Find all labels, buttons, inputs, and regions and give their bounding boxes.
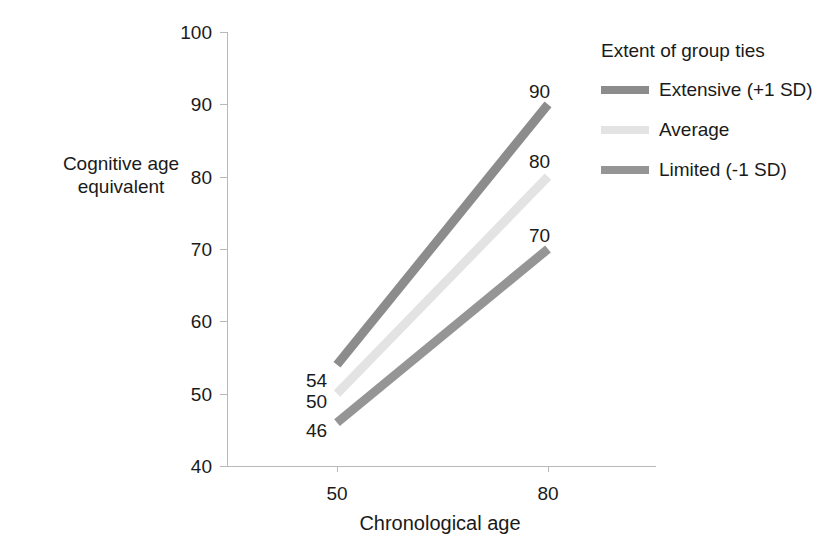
data-label-extensive-left: 54 xyxy=(306,371,327,390)
legend-item-limited[interactable]: Limited (-1 SD) xyxy=(601,159,831,181)
line-limited xyxy=(337,249,548,423)
legend-item-extensive[interactable]: Extensive (+1 SD) xyxy=(601,79,831,101)
y-axis-title: Cognitive age equivalent xyxy=(42,152,200,198)
legend-swatch-average-icon xyxy=(601,126,649,134)
y-tick-mark-60 xyxy=(220,321,227,322)
data-label-average-left: 50 xyxy=(306,392,327,411)
y-tick-label-100: 100 xyxy=(166,23,212,42)
legend-label-limited: Limited (-1 SD) xyxy=(659,159,787,181)
y-tick-label-70: 70 xyxy=(166,240,212,259)
x-tick-mark-80 xyxy=(548,466,549,472)
y-tick-label-90-wrap: 90 xyxy=(160,95,212,114)
legend: Extent of group ties Extensive (+1 SD) A… xyxy=(601,40,831,199)
y-tick-mark-80 xyxy=(220,177,227,178)
y-tick-label-50-wrap: 50 xyxy=(160,385,212,404)
chart-screenshot: 100 90 80 70 60 50 40 50 80 Cognitive ag… xyxy=(0,0,835,555)
y-tick-mark-40 xyxy=(220,466,227,467)
y-tick-mark-90 xyxy=(220,104,227,105)
y-tick-label-40-wrap: 40 xyxy=(160,457,212,476)
y-tick-label-50: 50 xyxy=(166,385,212,404)
y-axis-title-line-2: equivalent xyxy=(42,175,200,198)
x-tick-label-80: 80 xyxy=(508,483,588,505)
y-tick-mark-100 xyxy=(220,32,227,33)
y-tick-label-60: 60 xyxy=(166,312,212,331)
data-label-limited-left: 46 xyxy=(306,421,327,440)
y-tick-label-60-wrap: 60 xyxy=(160,312,212,331)
legend-label-average: Average xyxy=(659,119,729,141)
x-axis-title: Chronological age xyxy=(280,512,600,535)
y-axis-title-line-1: Cognitive age xyxy=(42,152,200,175)
data-label-limited-right: 70 xyxy=(529,226,550,245)
y-tick-label-70-wrap: 70 xyxy=(160,240,212,259)
y-axis-line xyxy=(227,32,228,467)
y-tick-label-90: 90 xyxy=(166,95,212,114)
data-label-average-right: 80 xyxy=(529,152,550,171)
x-tick-mark-50 xyxy=(337,466,338,472)
legend-label-extensive: Extensive (+1 SD) xyxy=(659,79,813,101)
legend-swatch-extensive-icon xyxy=(601,86,649,94)
y-tick-label-40: 40 xyxy=(166,457,212,476)
x-axis-line xyxy=(227,466,656,467)
y-tick-mark-70 xyxy=(220,249,227,250)
legend-title: Extent of group ties xyxy=(601,40,831,62)
y-tick-label-100-wrap: 100 xyxy=(160,23,212,42)
data-label-extensive-right: 90 xyxy=(529,82,550,101)
line-average xyxy=(337,177,548,394)
line-extensive xyxy=(337,104,548,364)
y-tick-mark-50 xyxy=(220,394,227,395)
legend-swatch-limited-icon xyxy=(601,166,649,174)
x-tick-label-50: 50 xyxy=(297,483,377,505)
legend-item-average[interactable]: Average xyxy=(601,119,831,141)
